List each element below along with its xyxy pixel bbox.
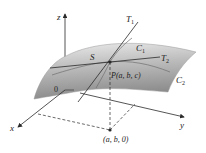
curve2-label: C2	[176, 75, 185, 86]
surface-label: S	[90, 52, 95, 62]
y-axis	[80, 93, 184, 117]
dashed-y-projection	[110, 104, 135, 130]
x-axis-label: x	[9, 123, 14, 133]
point-base	[108, 128, 111, 131]
partial-derivatives-diagram: z x y 0 S T1 T2 C1 C2 P(a, b, c) (a, b, …	[0, 0, 206, 153]
dashed-x-projection	[38, 114, 110, 130]
y-axis-label: y	[179, 120, 184, 130]
point-base-label: (a, b, 0)	[103, 135, 129, 144]
z-axis-label: z	[56, 12, 61, 22]
origin-label: 0	[54, 85, 58, 94]
point-p-label: P(a, b, c)	[110, 71, 141, 80]
point-p	[108, 60, 111, 63]
tangent1-label: T1	[126, 14, 134, 25]
